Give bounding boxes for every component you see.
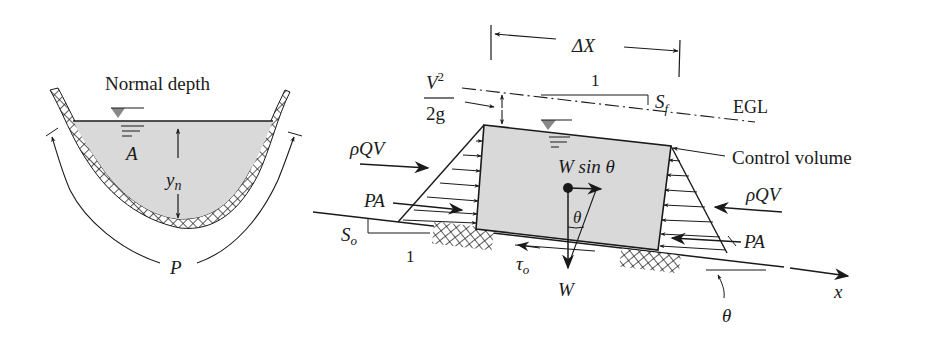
right-pressure-distribution [660, 146, 727, 253]
momentum-out-arrow [715, 207, 782, 212]
bed-slope-label: So [341, 224, 358, 248]
energy-grade-line [462, 88, 755, 122]
bed-slope-run: 1 [406, 247, 415, 266]
theta-bottom-label: θ [722, 305, 731, 326]
delta-x-label: ΔX [571, 35, 596, 56]
delta-x-arrow-right [624, 47, 678, 51]
velocity-head-pointer [465, 102, 494, 107]
velocity-head-denominator: 2g [426, 103, 446, 124]
momentum-in-arrow [360, 164, 428, 168]
control-volume-label: Control volume [732, 147, 852, 168]
open-channel-flow-diagram: Normal depth A yn P ΔX EGL 1 Sf V2 2g x … [0, 0, 930, 342]
weight-sin-theta-arrow [568, 188, 601, 189]
theta-pointer [718, 275, 724, 298]
perimeter-label: P [169, 257, 182, 278]
weight-sin-theta-label: W sin θ [558, 156, 615, 177]
velocity-head-numerator: V2 [426, 69, 444, 93]
friction-slope-run: 1 [591, 71, 600, 90]
pressure-in-arrow [393, 203, 462, 210]
area-label: A [124, 143, 138, 164]
channel-cross-section: Normal depth A yn P [46, 73, 302, 278]
left-pressure-distribution [398, 125, 484, 229]
x-axis-arrow [790, 268, 848, 276]
control-volume-pointer [673, 148, 725, 156]
shear-label: τo [516, 253, 530, 277]
momentum-in-label: ρQV [349, 138, 387, 159]
egl-label: EGL [733, 97, 768, 117]
delta-x-arrow-left [495, 34, 556, 39]
momentum-out-label: ρQV [745, 184, 783, 205]
bed-hatch-right [619, 249, 681, 274]
theta-label: θ [573, 208, 581, 227]
x-axis-label: x [833, 281, 843, 302]
control-volume-diagram: ΔX EGL 1 Sf V2 2g x So 1 [313, 25, 852, 326]
cross-section-title: Normal depth [105, 73, 211, 94]
pressure-in-label: PA [363, 190, 385, 211]
weight-label: W [558, 279, 576, 300]
pressure-out-label: PA [743, 231, 765, 252]
friction-slope-label: Sf [655, 91, 671, 116]
